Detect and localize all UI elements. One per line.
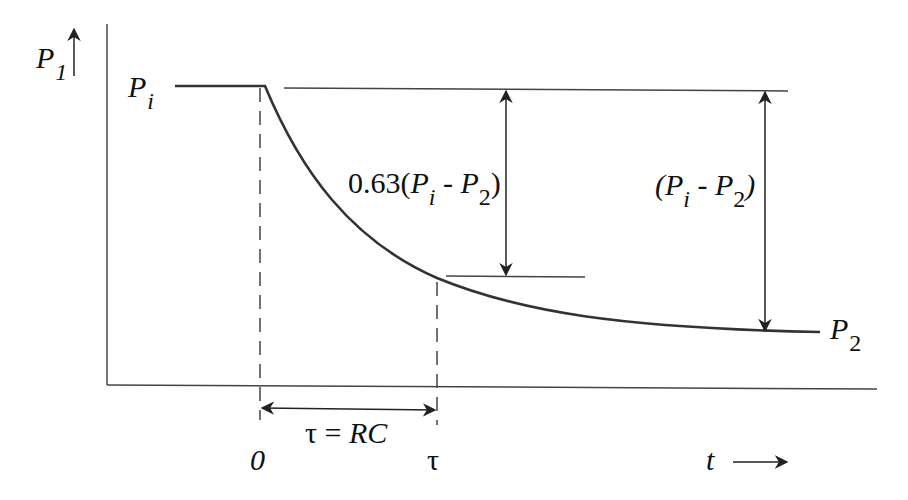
x-axis-label: t [706, 443, 715, 476]
pi-reference-line [284, 88, 788, 91]
y-axis-label: P1 [35, 41, 67, 85]
tau-level-line [446, 276, 585, 277]
x-axis [107, 385, 877, 389]
time-constant-arrow-icon [262, 408, 435, 410]
partial-drop-label: 0.63(Pi - P2) [348, 166, 501, 210]
x-tick-zero: 0 [250, 443, 265, 476]
decay-curve [175, 86, 820, 332]
initial-level-label: Pi [127, 70, 154, 114]
rc-decay-diagram: P1 Pi 0.63(Pi - P2) (Pi - P2) P2 τ = RC … [0, 0, 908, 500]
time-constant-label: τ = RC [305, 416, 388, 449]
x-tick-tau: τ [427, 443, 439, 476]
final-level-label: P2 [829, 312, 861, 356]
full-drop-label: (Pi - P2) [655, 168, 755, 212]
